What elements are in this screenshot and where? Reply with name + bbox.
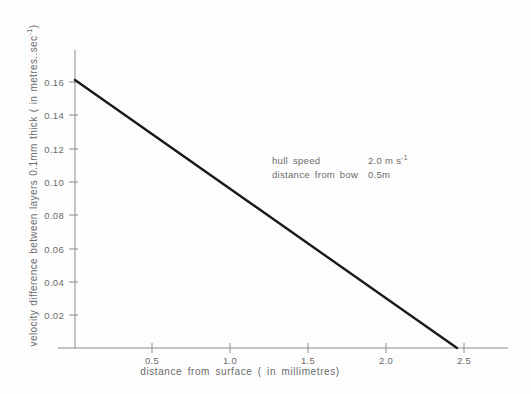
annotation-value: 0.5m xyxy=(368,169,390,180)
y-axis-title-text: velocity difference between layers 0.1mm… xyxy=(28,36,39,347)
y-axis-title: velocity difference between layers 0.1mm… xyxy=(28,21,39,351)
chart-figure: 0.02 0.04 0.06 0.08 0.10 0.12 0.14 0.16 … xyxy=(0,0,531,394)
annotation-value-text: 2.0 m s xyxy=(368,155,401,166)
annotation-block: hull speed 2.0 m s-1 distance from bow 0… xyxy=(272,155,408,183)
y-axis-title-superscript: -1 xyxy=(25,28,34,35)
annotation-row: distance from bow 0.5m xyxy=(272,169,408,180)
x-tick-label: 1.5 xyxy=(293,355,323,366)
annotation-key: distance from bow xyxy=(272,169,368,180)
x-tick-label: 0.5 xyxy=(137,355,167,366)
annotation-row: hull speed 2.0 m s-1 xyxy=(272,155,408,166)
annotation-value-superscript: -1 xyxy=(401,154,408,161)
x-tick-label: 1.0 xyxy=(215,355,245,366)
annotation-value-text: 0.5m xyxy=(368,169,390,180)
x-tick-label: 2.5 xyxy=(449,355,479,366)
data-line-series-0 xyxy=(75,80,457,348)
x-tick-label: 2.0 xyxy=(371,355,401,366)
y-axis-title-suffix: ) xyxy=(28,25,39,29)
annotation-key: hull speed xyxy=(272,155,368,166)
x-axis-title: distance from surface ( in millimetres) xyxy=(75,366,405,377)
plot-area xyxy=(0,0,531,394)
annotation-value: 2.0 m s-1 xyxy=(368,155,408,166)
y-tick-marks xyxy=(69,82,78,315)
